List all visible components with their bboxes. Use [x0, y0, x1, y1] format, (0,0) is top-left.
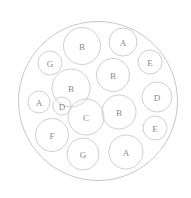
packed-circle-group[interactable]: B	[102, 95, 136, 129]
packed-circle-group[interactable]: D	[142, 82, 172, 112]
packed-circle-group[interactable]: G	[67, 138, 99, 170]
packed-circle-group[interactable]: E	[143, 116, 167, 140]
packed-circle-group[interactable]: C	[68, 99, 104, 135]
circle-label: B	[110, 71, 116, 81]
circle-label: D	[154, 93, 161, 103]
circle-packing-diagram: BAGBEBDADCBEFGA	[0, 0, 191, 198]
circle-label: D	[59, 102, 66, 112]
packed-circle-group[interactable]: A	[109, 135, 143, 169]
packed-circle-group[interactable]: B	[64, 28, 101, 65]
circle-label: E	[147, 58, 153, 68]
circle-label: A	[120, 38, 127, 48]
circle-label: B	[116, 108, 122, 118]
packed-circle-group[interactable]: E	[138, 50, 162, 74]
circle-label: B	[79, 42, 85, 52]
circle-label: E	[152, 124, 158, 134]
circle-label: G	[80, 150, 87, 160]
packed-circle-group[interactable]: A	[109, 28, 137, 56]
packed-circle-group[interactable]: F	[36, 119, 69, 152]
circle-label: C	[83, 113, 89, 123]
circle-label: G	[47, 59, 54, 69]
packed-circle-group[interactable]: B	[97, 59, 130, 92]
circle-label: F	[49, 131, 54, 141]
packed-circle-group[interactable]: A	[28, 91, 50, 113]
packed-circle-group[interactable]: G	[38, 51, 62, 75]
circle-label: A	[123, 148, 130, 158]
circle-label: A	[36, 98, 43, 108]
circle-label: B	[68, 84, 74, 94]
packing-canvas: BAGBEBDADCBEFGA	[0, 0, 191, 198]
